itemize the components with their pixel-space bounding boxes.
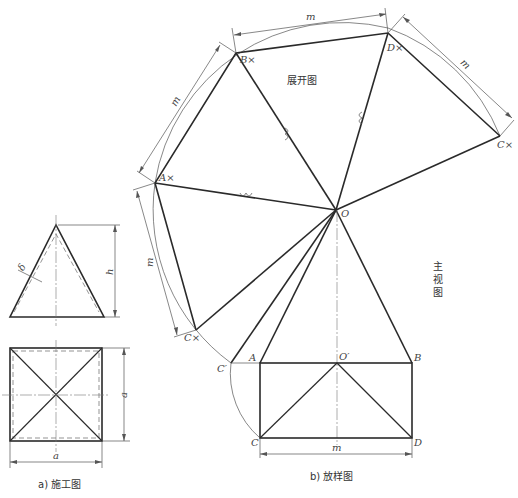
- m-label-right: m: [458, 57, 472, 71]
- front-view-label-1: 主: [433, 261, 443, 272]
- point-A: A: [248, 352, 256, 363]
- point-B: B: [413, 352, 421, 363]
- front-view-pyramid: [230, 210, 412, 458]
- point-D: D: [413, 437, 422, 448]
- point-C-prime: C′: [217, 363, 228, 374]
- m-label-bottom: m: [332, 442, 341, 453]
- top-view-square: [2, 340, 130, 468]
- width-label: a: [53, 450, 59, 461]
- development-label: 展开图: [287, 75, 317, 86]
- point-C-dev-right: C×: [497, 139, 513, 150]
- m-label-left-upper: m: [168, 94, 182, 108]
- m-label-left-lower: m: [144, 258, 155, 267]
- caption-b: b) 放样图: [310, 470, 353, 482]
- caption-a: a) 施工图: [38, 478, 81, 490]
- point-D-dev: D×: [386, 42, 403, 53]
- front-view-label-3: 图: [433, 287, 443, 298]
- point-A-dev: A×: [158, 172, 175, 183]
- point-C: C: [251, 437, 259, 448]
- m-label-top: m: [306, 11, 315, 22]
- height-label: h: [104, 269, 115, 275]
- thickness-label: δ: [15, 262, 28, 273]
- point-B-dev: B×: [239, 54, 256, 65]
- point-C-dev-left: C×: [184, 332, 200, 343]
- depth-label: a: [118, 392, 129, 398]
- pyramid-development-drawing: h δ a a a) 施工图: [0, 0, 518, 498]
- front-view-label-2: 视: [433, 273, 443, 285]
- development-pattern: [153, 23, 500, 363]
- point-O: O: [341, 208, 349, 219]
- point-O-prime: O′: [339, 351, 350, 362]
- m-dimensions: [133, 8, 514, 337]
